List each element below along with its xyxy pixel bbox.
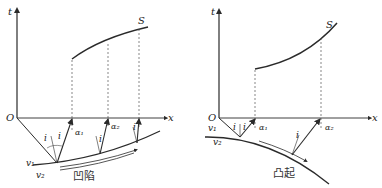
velocity-v2-label: v₂ [213,137,222,147]
incident-ray [17,118,57,163]
time-distance-curve [72,27,148,59]
velocity-v1-label: v₁ [26,158,35,168]
motion-arrow [60,150,136,167]
interface-boundary [205,137,329,184]
incident-ray [219,118,240,137]
angle-i-label: i [233,122,236,132]
convex-figure: t x O S i i i α₁ α₂ v₁ v₂ 凸起 [205,6,378,184]
curve-label: S [326,19,333,30]
alpha-1-label: α₁ [75,128,84,137]
velocity-v1-label: v₁ [208,123,217,133]
x-axis-label: x [372,112,378,123]
x-axis-label: x [168,112,174,123]
alpha-1-label: α₁ [259,123,268,132]
angle-i-label: i [133,122,136,132]
interface-boundary [33,131,160,165]
angle-i-label: i [99,134,102,144]
concave-figure: t x O S i i i i α₁ α₂ v₁ v₂ 凹陷 [6,6,174,183]
angle-arc [47,145,62,148]
figure-caption: 凹陷 [73,169,95,183]
diagram-canvas: t x O S i i i i α₁ α₂ v₁ v₂ 凹陷 [0,0,382,188]
angle-i-label: i [44,133,47,143]
angle-i-label: i [243,122,246,132]
motion-arrow-lower [60,153,134,170]
origin-label: O [6,112,14,123]
angle-i-label: i [58,131,61,141]
angle-i-label: i [296,130,299,140]
origin-label: O [208,112,216,123]
alpha-2-label: α₂ [325,123,334,132]
velocity-v2-label: v₂ [36,170,45,180]
alpha-2-label: α₂ [111,122,120,131]
figure-caption: 凸起 [273,167,295,180]
reflected-ray [57,119,72,163]
t-axis-label: t [211,6,216,17]
time-distance-curve [255,23,337,69]
motion-arrow [259,141,306,161]
t-axis-label: t [8,6,13,17]
curve-label: S [138,15,145,26]
reflected-ray [137,119,139,143]
